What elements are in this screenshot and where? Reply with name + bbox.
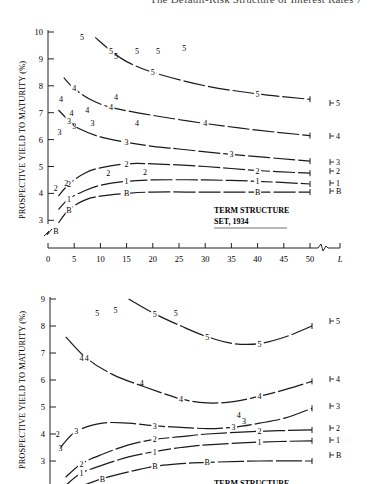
top-y-axis-label: PROSPECTIVE YIELD TO MATURITY (%) — [18, 61, 27, 219]
curve-label: 5 — [151, 68, 155, 77]
end-label: 2 — [336, 167, 340, 176]
curve-label: B — [255, 188, 260, 197]
series-2: 22222222 — [54, 159, 340, 196]
series-2: 22222 — [56, 424, 340, 477]
y-tick-label: 3 — [41, 456, 45, 466]
series-3: 3333333 — [58, 110, 340, 167]
curve-label: 4 — [203, 119, 207, 128]
x-tick-label: 45 — [280, 254, 289, 264]
data-point-5: 5 — [135, 47, 139, 56]
curve-3 — [59, 110, 311, 161]
curve-label: 5 — [153, 310, 157, 319]
y-tick-label: 4 — [39, 188, 44, 198]
end-label: 5 — [336, 99, 340, 108]
data-point-5: 5 — [156, 47, 160, 56]
curve-label: 1 — [256, 177, 260, 186]
curve-label: 1 — [125, 177, 129, 186]
curve-label: 5 — [205, 333, 209, 342]
data-point-4: 4 — [59, 95, 63, 104]
series-5: 5555555 — [95, 299, 340, 349]
top-caption-line1: TERM STRUCTURE — [214, 206, 289, 215]
end-label: B — [336, 187, 341, 196]
data-point-3: 3 — [242, 417, 246, 426]
curve-label: 5 — [256, 90, 260, 99]
curve-label: 2 — [79, 460, 83, 469]
y-tick-label: 3 — [39, 215, 43, 225]
series-4: 4444444 — [66, 337, 340, 420]
curve-label: 1 — [258, 438, 262, 447]
curve-label: 2 — [256, 167, 260, 176]
x-tick-label: 40 — [253, 254, 262, 264]
data-point-5: 5 — [114, 306, 118, 315]
end-label: 2 — [336, 424, 340, 433]
y-tick-label: 4 — [41, 429, 46, 439]
data-point-3: 3 — [58, 128, 62, 137]
curve-label: 1 — [67, 195, 71, 204]
curve-label: 2 — [258, 427, 262, 436]
bottom-y-axis-label: PROSPECTIVE YIELD TO MATURITY (%) — [18, 311, 27, 469]
y-tick-label: 9 — [41, 294, 45, 304]
data-point-3: 3 — [91, 119, 95, 128]
curve-label: B — [124, 189, 129, 198]
figure-canvas: PROSPECTIVE YIELD TO MATURITY (%) 345678… — [0, 0, 372, 484]
data-point-2: 2 — [143, 168, 147, 177]
data-point-3: 3 — [72, 122, 76, 131]
top-series: 5555555554444444443333333222222221111BBB… — [53, 33, 341, 236]
end-label: 5 — [336, 317, 340, 326]
data-point-5: 5 — [95, 309, 99, 318]
y-tick-label: 8 — [41, 321, 45, 331]
curve-label: 3 — [153, 422, 157, 431]
series-1: 1111 — [59, 176, 341, 209]
curve-5 — [129, 299, 312, 344]
curve-label: B — [152, 462, 157, 471]
top-chart: PROSPECTIVE YIELD TO MATURITY (%) 345678… — [18, 27, 343, 264]
curve-label: 3 — [231, 423, 235, 432]
top-axes: 34567891005101520253035404550L — [35, 27, 343, 264]
series-B: BBBBB — [53, 187, 341, 236]
curve-label: 4 — [72, 84, 76, 93]
series-4: 444444444 — [59, 78, 340, 141]
data-point-3: 3 — [58, 444, 62, 453]
curve-label: 5 — [258, 340, 262, 349]
data-point-2: 2 — [64, 179, 68, 188]
curve-4 — [66, 337, 312, 403]
data-point-4: 4 — [140, 379, 144, 388]
x-axis-label: L — [337, 254, 343, 264]
top-caption-line2: SET, 1934 — [214, 217, 249, 226]
data-point-4: 4 — [135, 119, 139, 128]
curve-label: 3 — [125, 138, 129, 147]
curve-label: 1 — [79, 469, 83, 478]
series-5: 555555555 — [80, 33, 340, 108]
end-label: 1 — [336, 436, 340, 445]
x-tick-label: 5 — [72, 254, 76, 264]
data-point-2: 2 — [56, 430, 60, 439]
curve-label: 3 — [67, 117, 71, 126]
data-point-B: B — [53, 227, 58, 236]
series-B: BBBB — [76, 451, 341, 484]
curve-label: 4 — [109, 103, 113, 112]
data-point-5: 5 — [80, 33, 84, 42]
curve-label: 4 — [179, 395, 183, 404]
end-label: 3 — [336, 158, 340, 167]
data-point-5: 5 — [182, 44, 186, 53]
end-label: 4 — [336, 132, 340, 141]
end-label: 3 — [336, 402, 340, 411]
data-point-4: 4 — [237, 411, 241, 420]
bottom-axes: 3456789 — [41, 294, 56, 484]
curve-label: 4 — [85, 354, 89, 363]
y-tick-label: 7 — [39, 108, 43, 118]
bottom-chart: PROSPECTIVE YIELD TO MATURITY (%) 345678… — [18, 294, 341, 484]
curve-label: 3 — [229, 150, 233, 159]
data-point-4: 4 — [79, 354, 83, 363]
data-point-5: 5 — [114, 52, 118, 61]
curve-label: B — [205, 458, 210, 467]
x-tick-label: 15 — [122, 254, 131, 264]
y-tick-label: 6 — [39, 135, 43, 145]
end-label: B — [336, 451, 341, 460]
y-tick-label: 5 — [41, 402, 45, 412]
curve-label: 2 — [125, 160, 129, 169]
y-tick-label: 10 — [35, 27, 44, 37]
data-point-4: 4 — [114, 93, 118, 102]
y-tick-label: 7 — [41, 348, 45, 358]
y-tick-label: 9 — [39, 54, 43, 64]
